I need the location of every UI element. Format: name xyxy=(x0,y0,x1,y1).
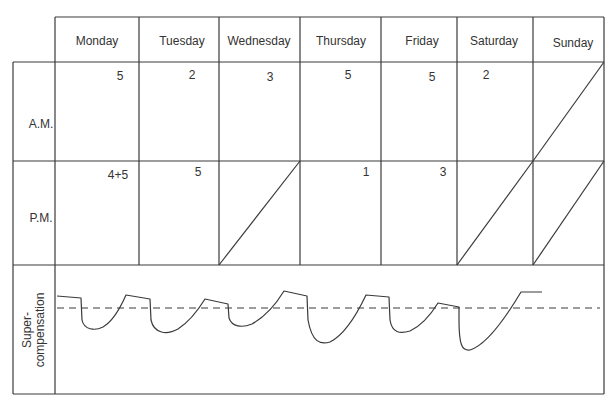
supercompensation-curve xyxy=(57,291,542,350)
day-header-saturday: Saturday xyxy=(470,34,518,48)
grid-lines xyxy=(0,0,615,404)
day-header-wednesday: Wednesday xyxy=(227,34,290,48)
supercompensation-label: Super- compensation xyxy=(21,293,47,368)
am-value-saturday: 2 xyxy=(483,68,490,82)
day-header-sunday: Sunday xyxy=(553,36,594,50)
crossed-cell-wednesday-pm xyxy=(219,161,300,265)
am-value-tuesday: 2 xyxy=(189,68,196,82)
pm-value-thursday: 1 xyxy=(363,165,370,179)
am-value-monday: 5 xyxy=(117,69,124,83)
am-value-wednesday: 3 xyxy=(267,70,274,84)
day-header-monday: Monday xyxy=(76,34,119,48)
am-value-thursday: 5 xyxy=(345,68,352,82)
supercompensation-label-line2: compensation xyxy=(34,293,47,368)
crossed-cell-sunday-pm xyxy=(533,161,604,265)
day-header-tuesday: Tuesday xyxy=(159,34,205,48)
pm-value-tuesday: 5 xyxy=(195,165,202,179)
crossed-cell-sunday-am xyxy=(533,62,604,161)
pm-value-friday: 3 xyxy=(440,165,447,179)
row-label-pm: P.M. xyxy=(29,211,52,225)
day-header-thursday: Thursday xyxy=(316,34,366,48)
day-header-friday: Friday xyxy=(405,34,438,48)
training-week-diagram: Monday Tuesday Wednesday Thursday Friday… xyxy=(0,0,615,404)
crossed-cell-saturday-pm xyxy=(457,161,533,265)
am-value-friday: 5 xyxy=(429,70,436,84)
pm-value-monday: 4+5 xyxy=(108,168,128,182)
row-label-am: A.M. xyxy=(29,117,54,131)
